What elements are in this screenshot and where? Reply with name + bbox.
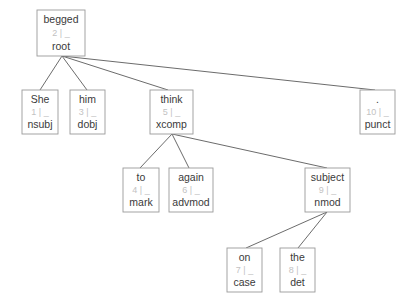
node-relation-again: advmod <box>172 196 210 208</box>
node-relation-to: mark <box>129 196 153 208</box>
node-meta-the: 8 | _ <box>289 265 307 275</box>
node-word-subject: subject <box>311 171 344 183</box>
node-relation-begged: root <box>52 40 70 52</box>
node-subject[interactable]: subject9 | _nmod <box>305 168 350 212</box>
node-relation-subject: nmod <box>314 196 340 208</box>
node-meta-subject: 9 | _ <box>319 185 337 195</box>
edge-begged-to-she <box>40 56 62 90</box>
node-again[interactable]: again6 | _advmod <box>169 168 213 212</box>
node-meta-on: 7 | _ <box>236 265 254 275</box>
edge-think-to-to <box>140 134 172 168</box>
nodes-layer: begged2 | _rootShe1 | _nsubjhim3 | _dobj… <box>22 10 395 292</box>
edge-subject-to-the <box>298 212 327 248</box>
node-to[interactable]: to4 | _mark <box>123 168 159 212</box>
node-relation-she: nsubj <box>27 118 52 130</box>
node-word-again: again <box>178 171 204 183</box>
node-relation-think: xcomp <box>156 118 187 130</box>
node-on[interactable]: on7 | _case <box>227 248 262 292</box>
node-think[interactable]: think5 | _xcomp <box>150 90 193 134</box>
node-relation-him: dobj <box>78 118 98 130</box>
node-word-begged: begged <box>43 13 78 25</box>
node-relation-on: case <box>233 276 255 288</box>
dependency-tree-diagram: begged2 | _rootShe1 | _nsubjhim3 | _dobj… <box>0 0 403 307</box>
node-word-punct: . <box>376 93 379 105</box>
edge-begged-to-think <box>62 56 168 90</box>
node-word-the: the <box>290 251 305 263</box>
node-punct[interactable]: .10 | _punct <box>360 90 395 134</box>
edge-subject-to-on <box>246 212 327 248</box>
edge-begged-to-him <box>62 56 87 90</box>
node-word-on: on <box>239 251 251 263</box>
node-meta-she: 1 | _ <box>31 107 49 117</box>
node-the[interactable]: the8 | _det <box>280 248 315 292</box>
node-meta-him: 3 | _ <box>79 107 97 117</box>
node-him[interactable]: him3 | _dobj <box>70 90 105 134</box>
node-meta-punct: 10 | _ <box>366 107 389 117</box>
node-word-him: him <box>79 93 96 105</box>
node-word-think: think <box>160 93 183 105</box>
node-relation-the: det <box>290 276 305 288</box>
edge-think-to-again <box>172 134 189 168</box>
node-meta-begged: 2 | _ <box>52 28 70 38</box>
node-meta-again: 6 | _ <box>182 185 200 195</box>
edges-layer <box>40 56 375 248</box>
edge-think-to-subject <box>172 134 327 168</box>
node-word-to: to <box>137 171 146 183</box>
edge-begged-to-punct <box>62 56 375 90</box>
node-meta-to: 4 | _ <box>132 185 150 195</box>
node-word-she: She <box>31 93 50 105</box>
node-she[interactable]: She1 | _nsubj <box>22 90 58 134</box>
node-relation-punct: punct <box>365 118 391 130</box>
node-begged[interactable]: begged2 | _root <box>37 10 85 56</box>
node-meta-think: 5 | _ <box>163 107 181 117</box>
